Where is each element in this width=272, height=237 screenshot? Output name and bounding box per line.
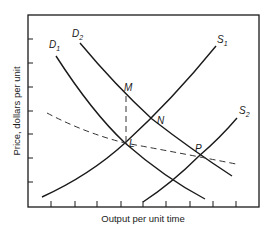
supply-curve-s2 (143, 118, 237, 202)
demand-curve-d2 (80, 43, 232, 176)
label-s2: S2 (239, 105, 250, 118)
y-axis-label: Price, dollars per unit (11, 66, 22, 156)
y-axis-ticks (28, 39, 33, 182)
label-d1: D1 (49, 39, 60, 52)
point-label-l: L (129, 138, 135, 149)
supply-demand-diagram: D1 D2 S1 S2 M N L P Output per unit time… (0, 0, 272, 237)
point-label-n: N (157, 115, 165, 126)
x-axis-label: Output per unit time (101, 213, 184, 224)
point-label-p: P (195, 143, 202, 154)
label-s1: S1 (217, 34, 228, 47)
label-d2: D2 (72, 28, 83, 41)
point-label-m: M (124, 82, 133, 93)
supply-curve-s1 (42, 46, 216, 197)
